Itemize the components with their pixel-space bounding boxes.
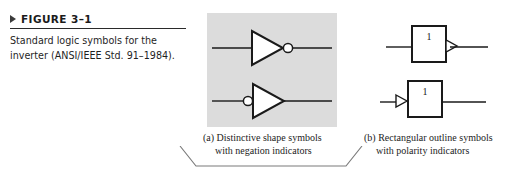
subcaption-b-line-2: with polarity indicators xyxy=(364,145,516,158)
right-triangle-marker-icon xyxy=(10,15,16,23)
figure-rule-divider xyxy=(10,28,186,29)
inverter-triangle-icon-input-bubble xyxy=(207,79,337,121)
group-bracket-a xyxy=(178,146,364,170)
figure-caption-line-2: inverter (ANSI/IEEE Std. 91–1984). xyxy=(10,50,175,61)
figure-header: FIGURE 3–1 xyxy=(10,12,192,25)
inverter-triangle-icon-output-bubble xyxy=(207,26,337,68)
figure-caption-text: Standard logic symbols for the inverter … xyxy=(10,34,190,63)
subcaption-b-line-1: (b) Rectangular outline symbols xyxy=(364,132,516,145)
subcaption-a-line-1: (a) Distinctive shape symbols xyxy=(203,132,353,145)
figure-page: FIGURE 3–1 Standard logic symbols for th… xyxy=(0,0,521,177)
subcaption-b: (b) Rectangular outline symbols with pol… xyxy=(364,132,516,157)
qualifier-label-bottom: 1 xyxy=(423,86,428,97)
rectangular-outline-icon-output-polarity: 1 xyxy=(384,20,504,70)
figure-label: FIGURE 3–1 xyxy=(21,13,92,25)
qualifier-label-top: 1 xyxy=(427,31,432,42)
rectangular-outline-icon-input-polarity: 1 xyxy=(378,75,504,125)
figure-caption-line-1: Standard logic symbols for the xyxy=(10,35,157,46)
figure-caption-block: FIGURE 3–1 Standard logic symbols for th… xyxy=(10,12,192,25)
